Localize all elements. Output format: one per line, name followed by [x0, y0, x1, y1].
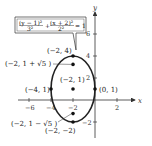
- y-axis-label: y: [92, 4, 98, 12]
- label-covertex-right: (0, 1): [99, 86, 118, 94]
- point-focus-top: [71, 63, 75, 67]
- label-vertex-top: (−2, 4): [47, 47, 72, 55]
- point-covertex-right: [93, 87, 97, 91]
- equation-callout: (y − 1)² 3² + (x + 2)² 2² = 1: [15, 17, 86, 50]
- x-tick-label: −6: [25, 104, 35, 112]
- point-covertex-left: [49, 87, 53, 91]
- y-tick-label: 2: [86, 74, 90, 82]
- points: [49, 54, 97, 124]
- equation-term2-denominator: 2²: [58, 25, 65, 32]
- label-vertex-bottom: (−2, −2): [45, 127, 76, 135]
- point-vertex-bottom: [71, 120, 75, 124]
- y-tick-label: 4: [86, 52, 90, 60]
- point-focus-bottom: [71, 112, 75, 116]
- equation-term1-denominator: 3²: [27, 25, 34, 32]
- label-center: (−2, 1): [60, 76, 85, 84]
- x-tick-label: 2: [115, 104, 119, 112]
- point-vertex-top: [71, 54, 75, 58]
- label-covertex-left: (−4, 1): [25, 86, 50, 94]
- point-center: [71, 87, 75, 91]
- ellipse-graph: x y −6 −4 −2 2 6 4 2 −2 (−2, 4) (−2, 1: [0, 0, 152, 146]
- equation-rhs: = 1: [75, 22, 86, 29]
- y-tick-label: −2: [82, 119, 92, 127]
- y-tick-label: 6: [86, 30, 90, 38]
- x-axis-label: x: [138, 97, 142, 105]
- label-focus-top: (−2, 1 + √5 ): [5, 60, 51, 68]
- x-tick-label: −2: [68, 104, 78, 112]
